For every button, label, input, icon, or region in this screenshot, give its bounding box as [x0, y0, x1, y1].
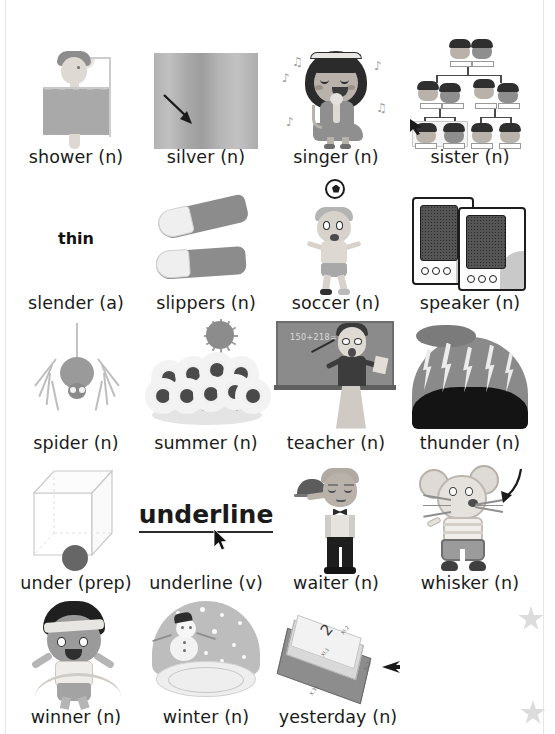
speaker-knob: [421, 267, 429, 275]
singer-cheek-left: [315, 85, 323, 90]
entry-shower[interactable]: shower (n): [10, 8, 142, 166]
soccer-boy-illustration: [270, 183, 402, 295]
teacher-jacket: [338, 356, 366, 386]
ball-under-cube: [62, 545, 88, 571]
mouse-whiskers-illustration: [402, 461, 538, 575]
entry-silver[interactable]: silver (n): [142, 8, 270, 166]
entry-label-singer: singer (n): [293, 149, 378, 167]
entry-label-speaker: speaker (n): [420, 295, 521, 313]
entry-summer[interactable]: summer (n): [142, 312, 270, 452]
soccer-ball-icon: [325, 179, 345, 199]
music-note-icon: ♪: [286, 115, 294, 129]
speaker-knob: [432, 267, 440, 275]
family-name-card: [442, 103, 464, 109]
winner-eye-right: [79, 637, 88, 647]
waiter-illustration: [270, 461, 402, 575]
entry-whisker[interactable]: whisker (n): [402, 452, 538, 592]
speaker-knob: [443, 267, 451, 275]
waiter-brow-right: [344, 484, 354, 486]
mouse-shoe-right: [469, 561, 486, 571]
cube-with-ball-under-illustration: [10, 461, 142, 575]
entry-waiter[interactable]: waiter (n): [270, 452, 402, 592]
entry-under[interactable]: under (prep): [10, 452, 142, 592]
entry-row: under (prep) underline underline (v): [10, 452, 538, 592]
soccer-boy-shoe-right: [338, 289, 350, 295]
speaker-grille: [466, 215, 506, 269]
page-left-rule: [5, 0, 6, 734]
mouse-shorts-gap: [460, 549, 465, 563]
entry-label-whisker: whisker (n): [421, 575, 519, 593]
tree-connector: [480, 117, 512, 119]
entry-label-sister: sister (n): [430, 149, 509, 167]
teacher-eye-right: [354, 338, 362, 345]
singer-cheek-right: [347, 85, 355, 90]
speaker-knobs: [467, 275, 497, 283]
family-member-portrait: [500, 125, 520, 143]
family-member-portrait: [474, 81, 494, 99]
spider-leg: [51, 380, 59, 410]
entry-slender[interactable]: thin slender (a): [10, 166, 142, 312]
winner-boy-ribbon-illustration: [10, 599, 142, 709]
tree-connector: [467, 67, 469, 75]
singer-shoe-left: [324, 144, 335, 149]
storm-dark-ground: [412, 387, 528, 429]
soccer-boy-eye-left: [323, 221, 330, 230]
entry-label-spider: spider (n): [33, 435, 118, 453]
shower-person-legs: [69, 134, 80, 149]
entry-label-winner: winner (n): [31, 709, 122, 727]
shower-person-eye: [77, 66, 80, 69]
mouse-eye-left: [449, 487, 457, 496]
entry-teacher[interactable]: 150+218= teacher: [270, 312, 402, 452]
spider-illustration: [10, 321, 142, 435]
family-name-card: [415, 143, 437, 149]
speaker-knob: [478, 275, 486, 283]
family-member-portrait: [440, 85, 460, 103]
underlined-word-text: underline: [142, 461, 270, 575]
entry-label-under: under (prep): [20, 575, 131, 593]
music-note-icon: ♪: [282, 71, 290, 85]
family-tree-illustration: [402, 27, 538, 149]
microphone-icon: [330, 93, 343, 105]
entry-speaker[interactable]: speaker (n): [402, 166, 538, 312]
entry-yesterday[interactable]: 2 XI.2 XI.1 XI.2 X.31 yesterday (n: [270, 592, 406, 726]
entry-winter[interactable]: winter (n): [142, 592, 270, 726]
entry-row: spider (n): [10, 312, 538, 452]
entry-winner[interactable]: winner (n): [10, 592, 142, 726]
entry-thunder[interactable]: thunder (n): [402, 312, 538, 452]
page-right-rule: [543, 0, 544, 734]
soccer-boy-mouth: [330, 234, 339, 241]
entry-singer[interactable]: ♪ ♫ ♪ ♪ ♫: [270, 8, 402, 166]
entry-empty-slot: [406, 592, 538, 726]
underlined-sample-word: underline: [139, 502, 274, 532]
calendar-pages-illustration: 2 XI.2 XI.1 XI.2 X.31: [270, 599, 406, 709]
shower-rod-vertical: [109, 59, 111, 137]
entry-sister[interactable]: sister (n): [402, 8, 538, 166]
entry-row: thin slender (a): [10, 166, 538, 312]
entry-slippers[interactable]: slippers (n): [142, 166, 270, 312]
soccer-boy-shirt: [321, 241, 347, 265]
spider-thread: [76, 323, 78, 361]
teacher-eye-left: [342, 338, 350, 345]
singer-illustration: ♪ ♫ ♪ ♪ ♫: [270, 27, 402, 149]
slipper-lower: [155, 245, 247, 281]
mouse-eye-right: [465, 487, 473, 496]
snowflake: [220, 613, 224, 617]
soccer-boy-arm-right: [345, 240, 362, 250]
tree-connector: [439, 109, 441, 117]
singer-arm: [312, 105, 322, 129]
soccer-boy-eye-right: [336, 221, 343, 230]
family-member-portrait: [498, 85, 518, 103]
family-name-card: [471, 143, 493, 149]
curtain-hook: [45, 89, 51, 90]
entry-label-yesterday: yesterday (n): [279, 709, 398, 727]
speaker-knobs: [421, 267, 451, 275]
entry-soccer[interactable]: soccer (n): [270, 166, 402, 312]
entry-underline[interactable]: underline underline (v): [142, 452, 270, 592]
waiter-shoes: [324, 567, 356, 574]
speaker-box-right: [458, 207, 526, 291]
sunflower: [238, 381, 268, 411]
pointer-arrow-icon: [376, 657, 402, 677]
snowflake: [204, 651, 208, 655]
family-name-card: [450, 61, 472, 67]
entry-spider[interactable]: spider (n): [10, 312, 142, 452]
